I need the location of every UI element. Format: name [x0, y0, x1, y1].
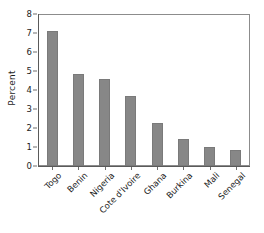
y-tick-mark	[33, 90, 37, 91]
x-tick-label: Togo	[43, 171, 63, 191]
x-tick-mark	[183, 167, 184, 170]
x-tick-mark	[236, 167, 237, 170]
x-tick-label: Senegal	[217, 171, 247, 201]
y-tick-label: 5	[27, 67, 32, 76]
y-tick-label: 8	[27, 10, 32, 19]
y-tick-mark	[33, 128, 37, 129]
x-tick-mark	[105, 167, 106, 170]
bar-chart: Percent 012345678 TogoBeninNigeriaCote d…	[0, 0, 264, 233]
x-tick-mark	[131, 167, 132, 170]
x-tick-mark	[52, 167, 53, 170]
y-tick-mark	[33, 52, 37, 53]
y-tick-mark	[33, 147, 37, 148]
x-tick-mark	[157, 167, 158, 170]
y-tick-mark	[33, 71, 37, 72]
y-tick-mark	[33, 166, 37, 167]
x-tick-label: Mali	[202, 171, 220, 189]
bar	[178, 139, 189, 166]
y-tick-mark	[33, 33, 37, 34]
bar	[152, 123, 163, 166]
y-tick-label: 4	[27, 86, 32, 95]
y-tick-label: 7	[27, 29, 32, 38]
x-tick-label: Burkina	[165, 171, 194, 200]
bar	[99, 79, 110, 166]
y-axis-tick-labels: 012345678	[16, 14, 32, 166]
bars-layer	[39, 14, 249, 166]
bar	[125, 96, 136, 166]
bar	[204, 147, 215, 166]
y-tick-label: 1	[27, 143, 32, 152]
bar	[230, 150, 241, 166]
x-tick-mark	[78, 167, 79, 170]
y-tick-label: 6	[27, 48, 32, 57]
y-tick-mark	[33, 109, 37, 110]
y-tick-label: 0	[27, 162, 32, 171]
y-tick-label: 2	[27, 124, 32, 133]
x-tick-label: Benin	[66, 171, 89, 194]
y-tick-mark	[33, 14, 37, 15]
x-tick-mark	[210, 167, 211, 170]
y-tick-label: 3	[27, 105, 32, 114]
bar	[47, 31, 58, 166]
x-axis-tick-labels: TogoBeninNigeriaCote d'IvoireGhanaBurkin…	[39, 171, 264, 233]
bar	[73, 74, 84, 166]
